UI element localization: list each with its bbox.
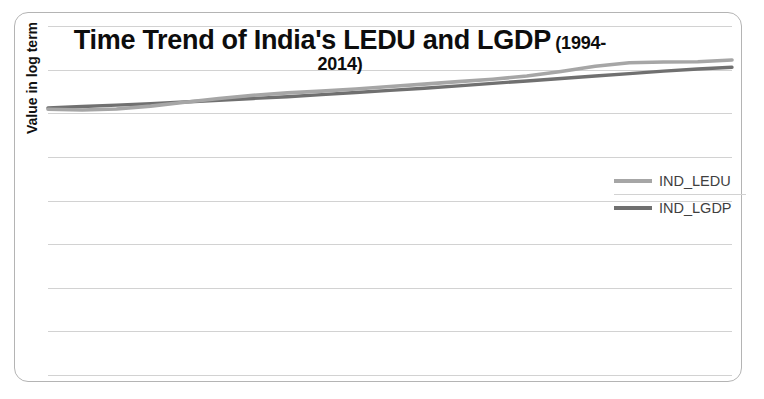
legend-label-ind-ledu: IND_LEDU [659,173,731,189]
chart-legend: IND_LEDU IND_LGDP [614,168,746,221]
legend-swatch-ind-lgdp [614,206,652,210]
chart-figure: Time Trend of India's LEDU and LGDP (199… [0,0,764,399]
legend-item-ind-lgdp[interactable]: IND_LGDP [614,195,746,221]
legend-swatch-ind-ledu [614,179,652,183]
y-axis-label: Value in log term [24,0,40,134]
legend-item-ind-ledu[interactable]: IND_LEDU [614,168,746,194]
legend-label-ind-lgdp: IND_LGDP [659,200,732,216]
